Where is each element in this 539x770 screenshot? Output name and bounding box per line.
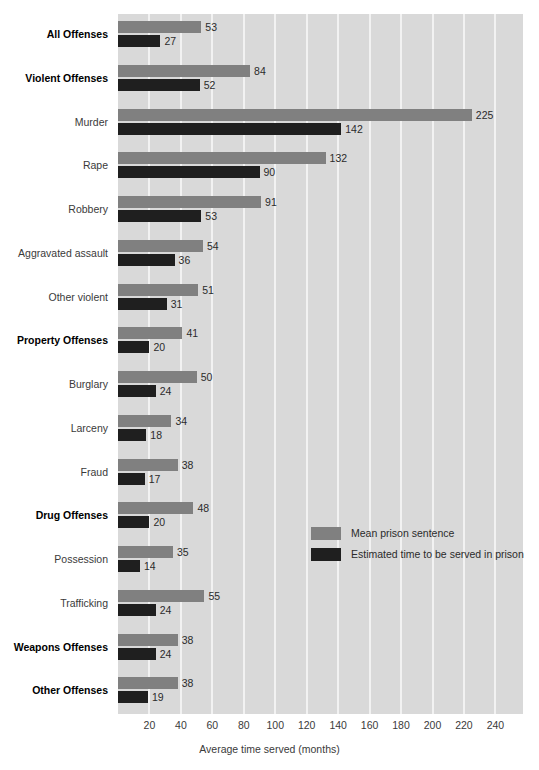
bar-mean bbox=[118, 459, 178, 471]
bar-mean bbox=[118, 196, 261, 208]
bar-serv bbox=[118, 691, 148, 703]
bar-mean bbox=[118, 502, 193, 514]
bar-mean bbox=[118, 109, 472, 121]
bar-serv bbox=[118, 516, 149, 528]
bar-mean bbox=[118, 152, 326, 164]
bar-mean bbox=[118, 327, 182, 339]
bar-serv bbox=[118, 166, 260, 178]
bar-serv bbox=[118, 210, 201, 222]
bar-value-label: 41 bbox=[186, 327, 198, 339]
bar-value-label: 90 bbox=[264, 166, 276, 178]
bar-value-label: 19 bbox=[152, 691, 164, 703]
bar-serv bbox=[118, 385, 156, 397]
plot-area: 5327845222514213290915354365131412050243… bbox=[118, 14, 523, 714]
category-label: Weapons Offenses bbox=[0, 641, 108, 653]
chart-row: 225142 bbox=[118, 102, 523, 146]
bar-value-label: 20 bbox=[153, 341, 165, 353]
chart-row: 5024 bbox=[118, 364, 523, 408]
legend-label: Mean prison sentence bbox=[351, 527, 454, 540]
bar-serv bbox=[118, 254, 175, 266]
category-label: Burglary bbox=[0, 378, 108, 390]
chart-row: 4120 bbox=[118, 320, 523, 364]
bar-serv bbox=[118, 341, 149, 353]
bar-serv bbox=[118, 35, 160, 47]
chart-row: 9153 bbox=[118, 189, 523, 233]
bar-value-label: 24 bbox=[160, 604, 172, 616]
bar-value-label: 52 bbox=[204, 79, 216, 91]
category-label: Fraud bbox=[0, 466, 108, 478]
category-label: Rape bbox=[0, 159, 108, 171]
legend-swatch bbox=[311, 527, 341, 540]
bar-value-label: 31 bbox=[171, 298, 183, 310]
bar-value-label: 27 bbox=[164, 35, 176, 47]
category-label: Larceny bbox=[0, 422, 108, 434]
chart-row: 3817 bbox=[118, 452, 523, 496]
bar-value-label: 51 bbox=[202, 284, 214, 296]
category-label: Property Offenses bbox=[0, 334, 108, 346]
category-label: All Offenses bbox=[0, 28, 108, 40]
x-tick-label: 20 bbox=[134, 719, 164, 731]
legend-swatch bbox=[311, 548, 341, 561]
bar-mean bbox=[118, 415, 171, 427]
category-label: Robbery bbox=[0, 203, 108, 215]
category-label: Violent Offenses bbox=[0, 72, 108, 84]
bar-value-label: 35 bbox=[177, 546, 189, 558]
bar-serv bbox=[118, 429, 146, 441]
bar-mean bbox=[118, 371, 197, 383]
bar-mean bbox=[118, 677, 178, 689]
category-label: Aggravated assault bbox=[0, 247, 108, 259]
bar-value-label: 24 bbox=[160, 648, 172, 660]
bar-value-label: 18 bbox=[150, 429, 162, 441]
category-label: Possession bbox=[0, 553, 108, 565]
bar-value-label: 84 bbox=[254, 65, 266, 77]
x-tick-label: 80 bbox=[229, 719, 259, 731]
bar-mean bbox=[118, 284, 198, 296]
bar-serv bbox=[118, 648, 156, 660]
bar-mean bbox=[118, 590, 204, 602]
x-tick-label: 40 bbox=[166, 719, 196, 731]
bar-mean bbox=[118, 546, 173, 558]
chart-row: 3418 bbox=[118, 408, 523, 452]
bar-serv bbox=[118, 79, 200, 91]
bar-value-label: 38 bbox=[182, 677, 194, 689]
x-tick-label: 160 bbox=[355, 719, 385, 731]
bar-serv bbox=[118, 473, 145, 485]
x-axis-label: Average time served (months) bbox=[0, 743, 539, 755]
bar-serv bbox=[118, 298, 167, 310]
bar-value-label: 38 bbox=[182, 459, 194, 471]
category-label: Other Offenses bbox=[0, 684, 108, 696]
x-tick-label: 220 bbox=[449, 719, 479, 731]
category-label-column: All OffensesViolent OffensesMurderRapeRo… bbox=[0, 14, 112, 714]
x-tick-label: 240 bbox=[480, 719, 510, 731]
bar-mean bbox=[118, 240, 203, 252]
chart-row: 5327 bbox=[118, 14, 523, 58]
bar-value-label: 34 bbox=[175, 415, 187, 427]
bar-mean bbox=[118, 634, 178, 646]
legend-label: Estimated time to be served in prison bbox=[351, 548, 524, 561]
bar-value-label: 91 bbox=[265, 196, 277, 208]
chart-row: 13290 bbox=[118, 145, 523, 189]
bar-value-label: 50 bbox=[201, 371, 213, 383]
x-tick-label: 140 bbox=[323, 719, 353, 731]
chart-row: 3819 bbox=[118, 670, 523, 714]
x-tick-label: 100 bbox=[260, 719, 290, 731]
category-label: Other violent bbox=[0, 291, 108, 303]
bar-serv bbox=[118, 604, 156, 616]
x-tick-label: 180 bbox=[386, 719, 416, 731]
bar-value-label: 142 bbox=[345, 123, 363, 135]
bar-value-label: 132 bbox=[330, 152, 348, 164]
category-label: Trafficking bbox=[0, 597, 108, 609]
x-tick-label: 60 bbox=[197, 719, 227, 731]
bar-mean bbox=[118, 21, 201, 33]
chart-row: 5131 bbox=[118, 277, 523, 321]
bar-value-label: 55 bbox=[208, 590, 220, 602]
bar-value-label: 24 bbox=[160, 385, 172, 397]
bar-value-label: 20 bbox=[153, 516, 165, 528]
bar-value-label: 225 bbox=[476, 109, 494, 121]
bar-serv bbox=[118, 560, 140, 572]
bar-value-label: 48 bbox=[197, 502, 209, 514]
chart-row: 8452 bbox=[118, 58, 523, 102]
bar-chart: 5327845222514213290915354365131412050243… bbox=[0, 0, 539, 770]
category-label: Drug Offenses bbox=[0, 509, 108, 521]
bar-value-label: 53 bbox=[205, 210, 217, 222]
